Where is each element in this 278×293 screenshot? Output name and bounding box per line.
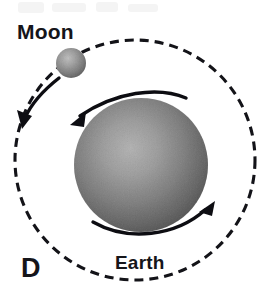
- moon-label: Moon: [17, 20, 74, 43]
- moon-sphere: [56, 48, 86, 78]
- earth-moon-diagram: Moon Earth D: [0, 0, 278, 293]
- diagram-canvas: Moon Earth D: [0, 0, 278, 293]
- scan-artifact: [18, 2, 158, 13]
- panel-letter-label: D: [21, 253, 41, 283]
- earth-sphere: [74, 98, 208, 232]
- earth-label: Earth: [115, 252, 165, 273]
- moon-orbit-direction-arrow: [17, 78, 59, 129]
